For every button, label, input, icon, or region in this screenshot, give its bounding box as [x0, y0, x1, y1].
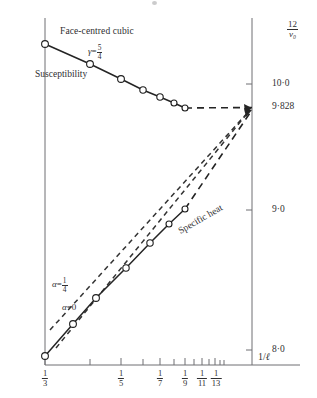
- data-point: [157, 94, 163, 100]
- alpha-fraction: 14: [62, 277, 68, 293]
- x-tick-fraction: 17: [157, 369, 163, 388]
- y-axis-label-fraction: 12v₀: [287, 20, 298, 40]
- figure-container: Face-centred cubic Susceptibility Specif…: [0, 0, 317, 398]
- x-tick-label: 17: [157, 369, 163, 388]
- x-tick-fraction: 113: [211, 369, 222, 388]
- x-tick-denominator: 13: [211, 379, 222, 388]
- data-point: [182, 105, 188, 111]
- data-point: [147, 240, 153, 246]
- x-tick-fraction: 19: [182, 369, 188, 388]
- y-tick-label-9-828: 9·828: [272, 102, 294, 112]
- x-tick-fraction: 111: [197, 369, 207, 388]
- y-axis-label: 12v₀: [287, 20, 298, 40]
- x-tick-denominator: 3: [42, 379, 48, 388]
- data-point: [42, 353, 49, 360]
- x-tick-fraction: 15: [118, 369, 124, 388]
- susceptibility-extrapolation: [185, 108, 252, 109]
- y-tick-label-9-0: 9·0: [272, 205, 285, 215]
- data-point: [182, 206, 188, 212]
- alpha-denominator: 4: [62, 286, 68, 294]
- x-tick-label: 13: [42, 369, 48, 388]
- annotation-alpha-zero: α=0: [62, 303, 76, 312]
- alpha-zero-guide-line: [56, 110, 250, 348]
- data-point: [42, 41, 49, 48]
- y-axis-label-denominator: v₀: [287, 30, 298, 39]
- data-point: [171, 100, 177, 106]
- specific-heat-extrapolation: [185, 110, 252, 209]
- data-point: [166, 221, 172, 227]
- gamma-fraction: 54: [97, 44, 103, 60]
- gamma-denominator: 4: [97, 53, 103, 61]
- data-point: [118, 76, 125, 83]
- x-tick-denominator: 5: [118, 379, 124, 388]
- x-tick-label: 19: [182, 369, 188, 388]
- data-point: [140, 87, 146, 93]
- data-point: [87, 61, 94, 68]
- data-point: [93, 295, 100, 302]
- x-tick-fraction: 13: [42, 369, 48, 388]
- x-tick-denominator: 11: [197, 379, 207, 388]
- data-point: [123, 265, 129, 271]
- y-tick-label-10-0: 10·0: [272, 79, 289, 89]
- x-tick-denominator: 9: [182, 379, 188, 388]
- alpha-zero-value: 0: [72, 302, 77, 312]
- plot-canvas: [0, 0, 317, 398]
- x-tick-denominator: 7: [157, 379, 163, 388]
- annotation-alpha-quarter: α=14: [52, 277, 68, 293]
- annotation-structure: Face-centred cubic: [60, 27, 134, 37]
- x-tick-label: 113: [211, 369, 222, 388]
- alpha-quarter-guide-line: [50, 110, 250, 330]
- y-tick-label-8-0: 8·0: [272, 345, 285, 355]
- x-axis-label-denominator: ℓ: [266, 351, 270, 362]
- annotation-susceptibility: Susceptibility: [35, 70, 87, 80]
- x-axis-label: 1/ℓ: [258, 352, 270, 362]
- x-tick-label: 111: [197, 369, 207, 388]
- annotation-gamma-exponent: γ=54: [88, 44, 102, 60]
- data-point: [70, 321, 77, 328]
- x-tick-label: 15: [118, 369, 124, 388]
